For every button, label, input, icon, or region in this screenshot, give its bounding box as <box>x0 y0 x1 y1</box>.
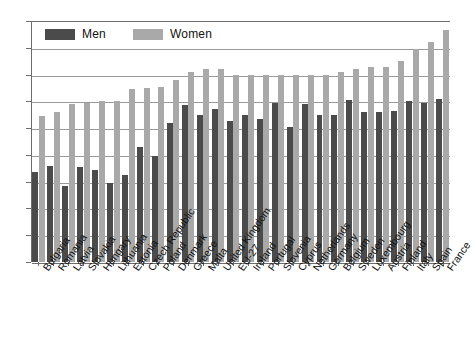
bars-layer <box>31 21 450 262</box>
bar-women <box>368 67 374 262</box>
bar-women <box>129 89 135 262</box>
bar-women <box>263 75 269 262</box>
legend-swatch-women <box>133 29 163 40</box>
bar-women <box>233 75 239 262</box>
bar-group <box>31 21 46 262</box>
legend-swatch-men <box>45 29 75 40</box>
bar-women <box>188 72 194 262</box>
bar-men <box>436 99 442 262</box>
bar-group <box>285 21 300 262</box>
bar-group <box>420 21 435 262</box>
bar-women <box>413 49 419 262</box>
bar-group <box>76 21 91 262</box>
x-axis-labels: BulgariaRomaniaLatviaSlovakiaHungaryLith… <box>31 266 450 358</box>
bar-men <box>317 115 323 262</box>
bar-group <box>226 21 241 262</box>
bar-group <box>196 21 211 262</box>
y-tick-mark-10 <box>26 262 31 263</box>
bar-group <box>315 21 330 262</box>
bar-group <box>435 21 450 262</box>
bar-men <box>272 103 278 262</box>
bar-women <box>383 67 389 262</box>
bar-group <box>61 21 76 262</box>
bar-women <box>323 75 329 262</box>
bar-group <box>300 21 315 262</box>
bar-women <box>158 87 164 262</box>
bar-women <box>428 42 434 262</box>
legend-label: Women <box>170 27 212 41</box>
bar-group <box>151 21 166 262</box>
bar-men <box>32 172 38 262</box>
bar-men <box>227 121 233 262</box>
legend-item: Women <box>133 27 212 41</box>
bar-group <box>211 21 226 262</box>
bar-group <box>360 21 375 262</box>
bar-men <box>421 103 427 262</box>
bar-group <box>136 21 151 262</box>
bar-women <box>278 75 284 262</box>
bar-group <box>375 21 390 262</box>
bar-men <box>182 105 188 262</box>
bar-women <box>218 69 224 262</box>
bar-group <box>270 21 285 262</box>
bar-group <box>106 21 121 262</box>
bar-group <box>46 21 61 262</box>
bar-group <box>121 21 136 262</box>
bar-women <box>443 30 449 262</box>
bar-group <box>91 21 106 262</box>
chart-legend: MenWomen <box>45 26 212 42</box>
bar-women <box>308 75 314 262</box>
legend-label: Men <box>82 27 106 41</box>
bar-women <box>293 75 299 262</box>
bar-men <box>406 101 412 262</box>
bar-women <box>39 116 45 262</box>
legend-item: Men <box>45 27 106 41</box>
bar-men <box>257 119 263 262</box>
